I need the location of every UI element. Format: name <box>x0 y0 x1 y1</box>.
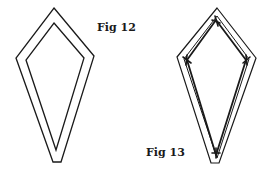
figure-12 <box>16 8 94 162</box>
tick-left-cross-icon <box>186 55 187 65</box>
fig-12-label: Fig 12 <box>97 21 136 34</box>
fig13-stitch-line <box>187 20 246 155</box>
diagram-canvas <box>0 0 277 172</box>
fig13-outer-outline <box>177 8 256 163</box>
figure-13 <box>177 8 256 163</box>
tick-right-cross-icon <box>246 55 247 65</box>
fig12-outer-outline <box>16 8 94 162</box>
fig12-inner-outline <box>26 23 84 150</box>
fig-13-label: Fig 13 <box>146 146 185 159</box>
